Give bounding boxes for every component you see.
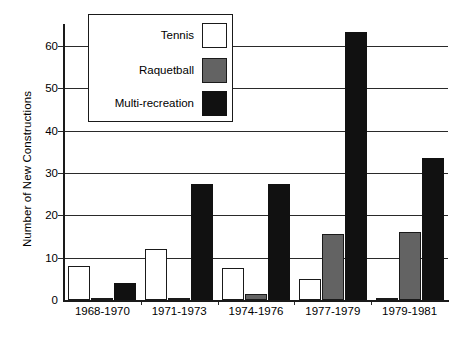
bar: [422, 158, 444, 300]
y-axis-tick-labels: 0102030405060: [30, 0, 58, 346]
legend-swatch-tennis: [202, 23, 227, 48]
legend-item-raquetball: Raquetball: [89, 52, 234, 88]
bar: [245, 294, 267, 300]
bar: [114, 283, 136, 300]
y-tick-label: 40: [32, 125, 58, 137]
legend-label-tennis: Tennis: [161, 29, 194, 41]
bar: [345, 32, 367, 300]
y-tick-label: 20: [32, 209, 58, 221]
bar: [268, 184, 290, 300]
y-tick-label: 50: [32, 82, 58, 94]
y-tick-label: 60: [32, 40, 58, 52]
bar-chart: Number of New Constructions 010203040506…: [0, 0, 464, 346]
legend-swatch-raquetball: [202, 58, 227, 83]
legend-item-tennis: Tennis: [89, 17, 234, 53]
x-tick-label: 1971-1973: [152, 305, 207, 317]
bar: [222, 268, 244, 300]
legend: Tennis Raquetball Multi-recreation: [88, 14, 233, 122]
bar: [68, 266, 90, 300]
x-tick-label: 1974-1976: [229, 305, 284, 317]
bar: [168, 298, 190, 300]
legend-label-multi-recreation: Multi-recreation: [115, 97, 194, 109]
bar: [399, 232, 421, 300]
legend-label-raquetball: Raquetball: [139, 64, 194, 76]
bar: [322, 234, 344, 300]
bar: [299, 279, 321, 300]
x-tick-label: 1979-1981: [382, 305, 437, 317]
y-tick-label: 30: [32, 167, 58, 179]
y-tick-label: 10: [32, 252, 58, 264]
x-tick-label: 1977-1979: [305, 305, 360, 317]
bar: [91, 298, 113, 300]
x-axis-line: [63, 300, 449, 302]
legend-swatch-multi-recreation: [202, 91, 227, 116]
bar: [145, 249, 167, 300]
x-tick-label: 1968-1970: [75, 305, 130, 317]
bar: [376, 298, 398, 300]
y-tick-label: 0: [32, 294, 58, 306]
legend-item-multi-recreation: Multi-recreation: [89, 85, 234, 121]
bar: [191, 184, 213, 300]
